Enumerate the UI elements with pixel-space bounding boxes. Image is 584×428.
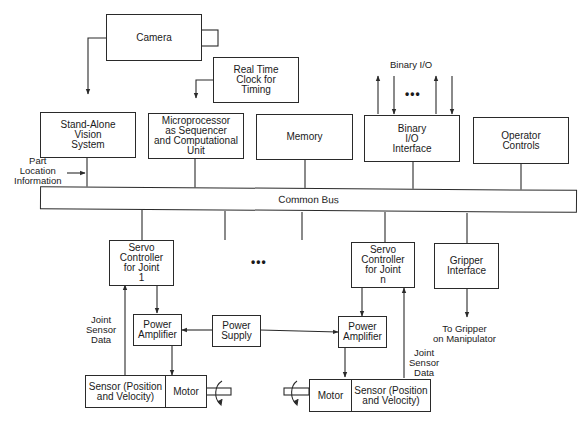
joint-sensor-data-1-label: Joint Sensor Data	[86, 315, 116, 345]
vision-label: Stand-Alone Vision System	[60, 120, 115, 150]
motor-1-block: Motor	[165, 375, 207, 408]
power-amplifier-n-block: Power Amplifier	[338, 316, 387, 348]
camera-label: Camera	[136, 33, 172, 43]
vision-system-block: Stand-Alone Vision System	[40, 112, 136, 158]
joints-ellipsis: •••	[251, 255, 267, 269]
servon-label: Servo Controller for Joint n	[361, 245, 404, 285]
amp1-label: Power Amplifier	[138, 320, 177, 340]
common-bus-block: Common Bus	[40, 186, 577, 213]
sensorn-label: Sensor (Position and Velocity)	[354, 386, 427, 406]
io-ellipsis: •••	[405, 87, 421, 101]
sensor-n-block: Sensor (Position and Velocity)	[351, 379, 431, 412]
servo-controller-1-block: Servo Controller for Joint 1	[109, 240, 174, 286]
operator-label: Operator Controls	[501, 131, 540, 151]
gripper-label: Gripper Interface	[447, 256, 486, 276]
real-time-clock-block: Real Time Clock for Timing	[213, 57, 299, 103]
memory-block: Memory	[256, 114, 353, 160]
micro-label: Microprocessor as Sequencer and Computat…	[154, 116, 238, 156]
memory-label: Memory	[286, 132, 322, 142]
servo-controller-n-block: Servo Controller for Joint n	[351, 242, 415, 288]
gripper-interface-block: Gripper Interface	[434, 243, 499, 289]
bus-label: Common Bus	[278, 194, 339, 204]
sensor1-label: Sensor (Position and Velocity)	[89, 382, 162, 402]
power-supply-block: Power Supply	[212, 315, 261, 347]
supply-label: Power Supply	[221, 321, 252, 341]
to-gripper-label: To Gripper on Manipulator	[433, 324, 496, 344]
ampn-label: Power Amplifier	[343, 322, 382, 342]
servo1-label: Servo Controller for Joint 1	[120, 243, 163, 283]
motor-n-block: Motor	[309, 379, 352, 412]
power-amplifier-1-block: Power Amplifier	[133, 314, 182, 346]
motor1-label: Motor	[173, 387, 199, 397]
camera-block: Camera	[106, 14, 202, 61]
motorn-label: Motor	[318, 391, 344, 401]
binary-io-label: Binary I/O	[390, 60, 432, 70]
part-location-label: Part Location Information	[14, 156, 62, 186]
binary-io-block: Binary I/O Interface	[364, 115, 460, 162]
rtc-label: Real Time Clock for Timing	[233, 65, 278, 95]
operator-controls-block: Operator Controls	[473, 117, 569, 164]
microprocessor-block: Microprocessor as Sequencer and Computat…	[148, 113, 244, 159]
binio-label: Binary I/O Interface	[393, 124, 432, 154]
joint-sensor-data-n-label: Joint Sensor Data	[409, 348, 439, 378]
sensor-1-block: Sensor (Position and Velocity)	[85, 375, 166, 408]
